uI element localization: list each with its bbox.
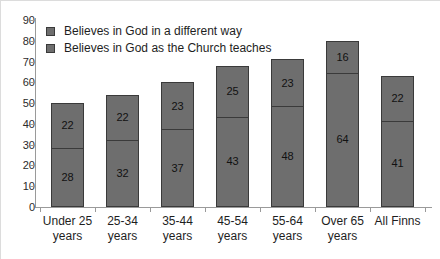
bar-4[interactable]: 2543	[216, 66, 249, 207]
bar-value-label: 32	[116, 168, 128, 179]
bar-segment-different-way[interactable]: 23	[161, 82, 194, 130]
legend-item-church-teaches[interactable]: Believes in God as the Church teaches	[46, 41, 271, 56]
bar-segment-different-way[interactable]: 16	[326, 41, 359, 74]
y-axis-line	[35, 18, 36, 208]
y-axis-tick-mark	[30, 103, 35, 104]
bar-value-label: 22	[391, 93, 403, 104]
bar-segment-different-way[interactable]: 22	[51, 103, 84, 149]
bar-value-label: 23	[171, 101, 183, 112]
y-axis-tick-mark	[30, 186, 35, 187]
bar-value-label: 37	[171, 163, 183, 174]
bar-7[interactable]: 2241	[381, 76, 414, 207]
bar-1[interactable]: 2228	[51, 103, 84, 207]
x-axis-tick-mark	[370, 207, 371, 212]
legend-label: Believes in God as the Church teaches	[64, 42, 271, 55]
bar-2[interactable]: 2232	[106, 95, 139, 207]
bar-segment-church-teaches[interactable]: 32	[106, 141, 139, 207]
bar-value-label: 48	[281, 151, 293, 162]
y-axis-tick-mark	[30, 20, 35, 21]
x-axis-tick-mark	[260, 207, 261, 212]
legend-swatch-icon	[46, 27, 55, 36]
bar-value-label: 22	[116, 112, 128, 123]
bar-segment-different-way[interactable]: 23	[271, 59, 304, 107]
bar-segment-church-teaches[interactable]: 48	[271, 107, 304, 207]
bar-value-label: 22	[61, 120, 73, 131]
bar-segment-church-teaches[interactable]: 41	[381, 122, 414, 207]
bar-segment-church-teaches[interactable]: 37	[161, 130, 194, 207]
bar-segment-church-teaches[interactable]: 28	[51, 149, 84, 207]
x-axis-tick-mark	[150, 207, 151, 212]
bar-segment-church-teaches[interactable]: 43	[216, 118, 249, 207]
y-axis-tick-label: 0	[9, 202, 35, 213]
bar-segment-church-teaches[interactable]: 64	[326, 74, 359, 207]
chart-legend: Believes in God in a different way Belie…	[46, 24, 271, 58]
y-axis-tick-mark	[30, 41, 35, 42]
legend-label: Believes in God in a different way	[64, 25, 242, 38]
chart-container: 9080706050403020100 22282232233725432348…	[0, 0, 440, 259]
bar-segment-different-way[interactable]: 25	[216, 66, 249, 118]
bar-value-label: 28	[61, 172, 73, 183]
bar-value-label: 23	[281, 78, 293, 89]
category-label-line: All Finns	[362, 214, 434, 229]
legend-swatch-icon	[46, 44, 55, 53]
bar-value-label: 43	[226, 156, 238, 167]
bar-5[interactable]: 2348	[271, 59, 304, 207]
y-axis-tick-mark	[30, 165, 35, 166]
bar-value-label: 41	[391, 158, 403, 169]
y-axis-tick-mark	[30, 62, 35, 63]
bar-value-label: 64	[336, 134, 348, 145]
bar-6[interactable]: 1664	[326, 41, 359, 207]
y-axis-tick-mark	[30, 124, 35, 125]
x-axis-category-label: All Finns	[362, 214, 434, 229]
x-axis-tick-mark	[205, 207, 206, 212]
bar-value-label: 16	[336, 52, 348, 63]
x-axis-tick-mark	[425, 207, 426, 212]
x-axis-tick-mark	[315, 207, 316, 212]
bar-segment-different-way[interactable]: 22	[381, 76, 414, 122]
bar-3[interactable]: 2337	[161, 82, 194, 207]
legend-item-different-way[interactable]: Believes in God in a different way	[46, 24, 271, 39]
y-axis-tick-mark	[30, 145, 35, 146]
bar-segment-different-way[interactable]: 22	[106, 95, 139, 141]
x-axis-tick-mark	[95, 207, 96, 212]
bar-value-label: 25	[226, 86, 238, 97]
y-axis-tick-mark	[30, 82, 35, 83]
x-axis-tick-mark	[40, 207, 41, 212]
category-label-line: years	[307, 229, 379, 244]
y-axis-ticks: 9080706050403020100	[0, 0, 35, 259]
